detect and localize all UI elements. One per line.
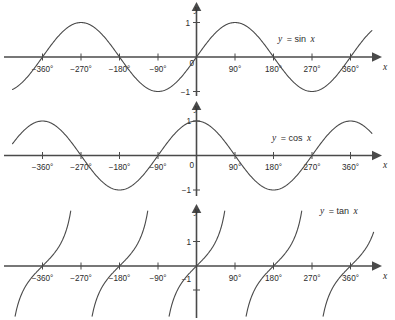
sine-x-axis-label: x — [382, 62, 388, 72]
sine-xtick-label: 180° — [265, 65, 282, 74]
tangent-xtick-label: −90° — [149, 274, 166, 283]
tangent-xtick-label: −180° — [109, 274, 131, 283]
tangent-plot: −360° −270° −180° −90° 90° 180° 270° 360… — [4, 204, 388, 318]
tangent-xtick-label: 270° — [304, 274, 321, 283]
sine-legend-label: y = sin x — [277, 34, 316, 44]
tangent-branches — [15, 211, 373, 316]
cosine-xtick-label: −360° — [32, 163, 54, 172]
sine-ytick-label: 1 — [185, 19, 190, 28]
sine-xtick-label: 270° — [304, 65, 321, 74]
tangent-xtick-label: 180° — [265, 274, 282, 283]
trig-graphs-figure: −360° −270° −180° −90° 90° 180° 270° 360… — [0, 0, 395, 320]
sine-xtick-label: −270° — [70, 65, 92, 74]
tangent-xtick-label: −270° — [70, 274, 92, 283]
tangent-y-axis-label: y — [193, 206, 199, 216]
cosine-x-axis-label: x — [382, 160, 388, 170]
sine-ytick-label: −1 — [181, 88, 191, 97]
cosine-ytick-label: −1 — [182, 186, 192, 195]
tangent-xtick-label: 360° — [342, 274, 359, 283]
tangent-legend-label: y = tan x — [319, 206, 359, 216]
sine-x-axis-arrowhead — [372, 52, 382, 62]
tangent-x-axis-arrowhead — [372, 261, 382, 271]
tangent-xtick-label: −360° — [32, 274, 54, 283]
cosine-legend-label: y = cos x — [271, 133, 312, 143]
cosine-x-axis-arrowhead — [372, 151, 382, 161]
tangent-x-axis-label: x — [382, 271, 388, 281]
cosine-xtick-label: 90° — [229, 163, 241, 172]
cosine-xtick-label: −180° — [109, 163, 131, 172]
sine-y-axis-label: y — [193, 4, 199, 14]
cosine-y-axis-label: y — [193, 103, 199, 113]
sine-xtick-label: −90° — [149, 65, 166, 74]
tangent-ytick-label: 1 — [186, 238, 191, 247]
tangent-xtick-label: 90° — [229, 274, 241, 283]
cosine-xtick-label: 180° — [265, 163, 282, 172]
cosine-plot: −360° −270° −180° −90° 90° 180° 270° 360… — [4, 101, 388, 196]
sine-xtick-label: −180° — [109, 65, 131, 74]
cosine-origin-label: 0 — [189, 161, 194, 170]
cosine-xtick-label: −270° — [70, 163, 92, 172]
cosine-xtick-label: 360° — [342, 163, 359, 172]
sine-xtick-label: −360° — [32, 65, 54, 74]
sine-plot: −360° −270° −180° −90° 90° 180° 270° 360… — [4, 2, 388, 97]
trig-graphs-svg: −360° −270° −180° −90° 90° 180° 270° 360… — [0, 0, 395, 320]
sine-xtick-label: 90° — [229, 65, 241, 74]
sine-xtick-label: 360° — [342, 65, 359, 74]
